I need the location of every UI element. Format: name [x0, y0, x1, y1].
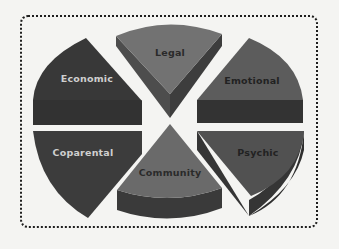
segment-label-community: Community [139, 167, 202, 178]
segment-label-emotional: Emotional [224, 75, 279, 86]
segment-label-psychic: Psychic [237, 147, 278, 158]
segment-label-legal: Legal [155, 47, 185, 58]
six-segment-diagram: Economic Legal Emotional Coparental Comm… [0, 0, 339, 249]
segment-label-coparental: Coparental [53, 147, 114, 158]
segment-label-economic: Economic [61, 73, 113, 84]
